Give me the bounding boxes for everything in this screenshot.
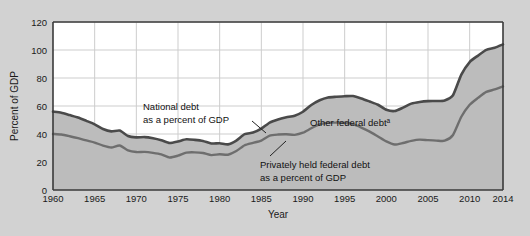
x-tick-label: 2000 [376,193,397,204]
y-tick-label: 120 [31,17,47,28]
y-axis-title: Percent of GDP [9,71,20,141]
privately-held-label-line2: as a percent of GDP [260,172,346,183]
y-tick-label: 80 [36,73,47,84]
x-tick-label: 2005 [417,193,438,204]
national-debt-label-line2: as a percent of GDP [143,114,229,125]
x-axis-title: Year [268,209,289,220]
other-federal-debt-label: Other federal debta [310,117,391,129]
national-debt-label-line1: National debt [143,101,199,112]
x-tick-label: 1960 [42,193,63,204]
y-tick-label: 100 [31,45,47,56]
x-tick-label: 2014 [492,193,513,204]
x-tick-label: 2010 [459,193,480,204]
x-tick-label: 1990 [292,193,313,204]
x-tick-label: 1980 [209,193,230,204]
x-tick-label: 1985 [251,193,272,204]
y-tick-label: 20 [36,157,47,168]
y-tick-label: 60 [36,101,47,112]
figure-debt-percent-gdp: 020406080100120 196019651970197519801985… [0,0,530,236]
annotation-other-federal-debt: Other federal debta [310,117,391,129]
x-tick-label: 1975 [167,193,188,204]
x-tick-label: 1995 [334,193,355,204]
x-tick-label: 1970 [126,193,147,204]
x-tick-label: 1965 [84,193,105,204]
y-tick-label: 40 [36,129,47,140]
privately-held-label-line1: Privately held federal debt [260,159,370,170]
